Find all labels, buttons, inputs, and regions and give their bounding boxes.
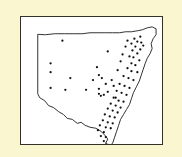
locality-dot <box>127 77 129 79</box>
locality-dot <box>92 79 94 81</box>
locality-dot <box>116 69 118 71</box>
locality-dot <box>113 85 115 87</box>
locality-dot <box>110 127 112 129</box>
figure-caption <box>0 0 1 1</box>
locality-dot <box>61 39 63 41</box>
locality-dot <box>103 94 105 96</box>
locality-dot <box>103 131 105 133</box>
locality-dot <box>107 121 109 123</box>
locality-dot <box>109 115 111 117</box>
locality-dot <box>98 93 100 95</box>
locality-dot <box>113 97 115 99</box>
locality-dot <box>101 77 103 79</box>
locality-dot <box>96 66 98 68</box>
locality-dot <box>132 56 134 58</box>
locality-dot <box>118 83 120 85</box>
locality-dot <box>130 42 132 44</box>
locality-dot <box>124 45 126 47</box>
locality-dot <box>136 71 138 73</box>
locality-dot <box>107 50 109 52</box>
locality-dot <box>105 136 107 138</box>
locality-dot <box>128 55 130 57</box>
locality-dot <box>115 104 117 106</box>
locality-dot <box>104 113 106 115</box>
locality-dot <box>105 83 107 85</box>
locality-dot <box>126 67 128 69</box>
locality-dot <box>136 40 138 42</box>
locality-dot <box>100 95 102 97</box>
locality-dot <box>123 85 125 87</box>
locality-dot <box>117 100 119 102</box>
locality-dot <box>69 77 71 79</box>
locality-dot <box>112 122 114 124</box>
locality-dot <box>98 74 100 76</box>
locality-dot <box>139 36 141 38</box>
locality-dot <box>139 48 141 50</box>
locality-dot <box>49 87 51 89</box>
distribution-map-svg: New South Wales locality dot distributio… <box>21 17 162 144</box>
locality-dot <box>85 89 87 91</box>
locality-dot <box>103 140 105 142</box>
locality-dot <box>116 90 118 92</box>
locality-dot <box>119 60 121 62</box>
locality-dot <box>99 124 101 126</box>
locality-dot <box>134 64 136 66</box>
locality-dot <box>49 71 51 73</box>
locality-dot <box>49 62 51 64</box>
locality-dot <box>140 41 142 43</box>
locality-dot <box>134 45 136 47</box>
locality-dot <box>131 49 133 51</box>
figure-canvas: New South Wales locality dot distributio… <box>0 0 182 157</box>
locality-dot <box>122 75 124 77</box>
locality-dot <box>130 70 132 72</box>
locality-dot <box>119 106 121 108</box>
locality-dot <box>128 87 130 89</box>
locality-dot <box>133 38 135 40</box>
locality-dot <box>114 116 116 118</box>
locality-dot <box>102 119 104 121</box>
locality-dot <box>111 79 113 81</box>
map-figure-frame: New South Wales locality dot distributio… <box>20 16 163 145</box>
locality-dot <box>107 91 109 93</box>
locality-dot <box>98 88 100 90</box>
locality-dot <box>130 62 132 64</box>
locality-dot <box>100 135 102 137</box>
locality-dot <box>97 129 99 131</box>
locality-dot <box>120 92 122 94</box>
locality-dot <box>112 109 114 111</box>
locality-dot <box>105 126 107 128</box>
locality-dot <box>121 53 123 55</box>
locality-dot <box>115 97 117 99</box>
locality-dot <box>64 89 66 91</box>
locality-dot <box>142 44 144 46</box>
locality-dot <box>122 101 124 103</box>
locality-dot <box>107 107 109 109</box>
locality-dot <box>138 59 140 61</box>
locality-dot <box>132 79 134 81</box>
locality-dot <box>110 103 112 105</box>
locality-dot <box>126 39 128 41</box>
locality-dot <box>116 111 118 113</box>
locality-dot <box>136 52 138 54</box>
locality-dot <box>125 94 127 96</box>
